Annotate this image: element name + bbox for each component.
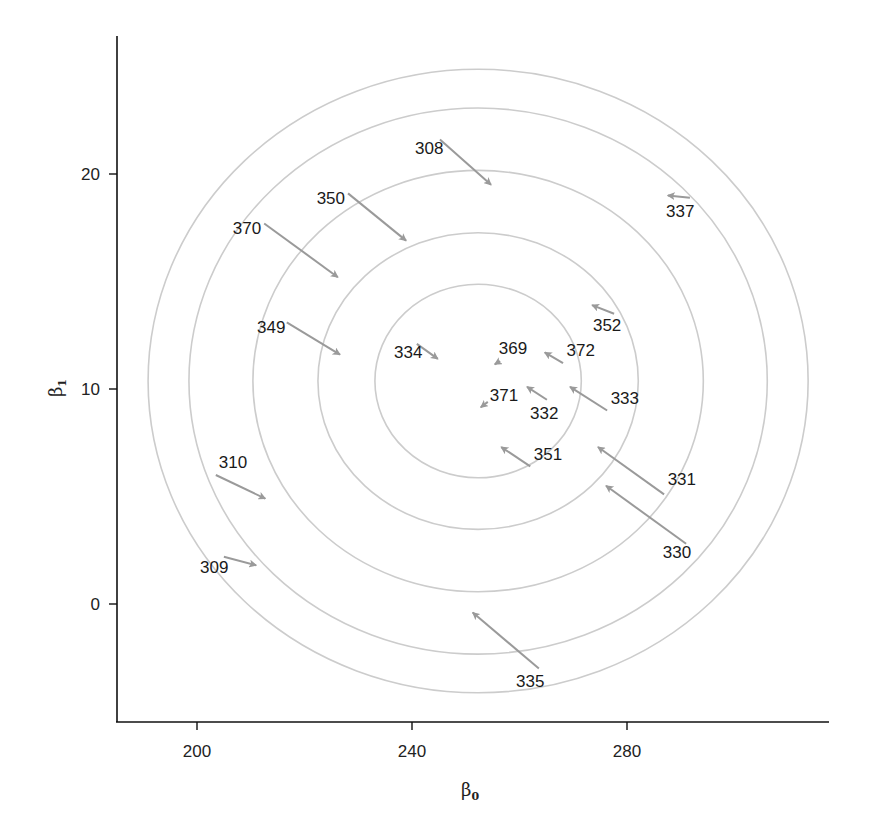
y-tick-label: 10 [81,380,100,399]
contour-ellipse-1 [189,108,767,654]
point-label-330: 330 [663,543,691,562]
y-tick-label: 0 [91,595,100,614]
arrow-352 [592,305,614,314]
point-label-350: 350 [317,189,345,208]
point-label-310: 310 [219,453,247,472]
contour-ellipse-3 [318,233,638,530]
point-label-332: 332 [530,404,558,423]
point-label-352: 352 [593,316,621,335]
point-label-308: 308 [415,139,443,158]
point-labels: 3083503703493343693723523373713323333513… [200,139,696,691]
arrow-309 [224,557,256,566]
y-axis-title: β1 [45,379,69,397]
x-ticks: 200240280 [183,722,641,761]
arrow-351 [501,447,530,466]
arrow-370 [264,223,338,277]
x-tick-label: 280 [613,742,641,761]
arrow-350 [348,193,406,240]
point-label-351: 351 [534,445,562,464]
arrow-310 [216,475,265,499]
x-tick-label: 200 [183,742,211,761]
point-label-371: 371 [490,386,518,405]
point-label-337: 337 [666,202,694,221]
arrow-349 [287,322,340,354]
arrow-333 [570,387,607,411]
point-label-369: 369 [499,339,527,358]
y-ticks: 01020 [81,165,117,614]
point-label-370: 370 [233,219,261,238]
point-label-335: 335 [516,672,544,691]
point-label-333: 333 [611,389,639,408]
chart-canvas: 3083503703493343693723523373713323333513… [0,0,884,839]
arrow-369 [495,361,500,364]
point-label-334: 334 [394,343,422,362]
arrow-330 [606,486,686,544]
arrow-337 [668,196,690,198]
point-label-372: 372 [567,341,595,360]
arrow-371 [481,402,488,407]
y-tick-label: 20 [81,165,100,184]
contour-ellipse-0 [148,69,808,693]
arrow-372 [545,352,563,363]
point-label-331: 331 [668,470,696,489]
x-axis-title: β0 [461,779,479,803]
point-label-309: 309 [200,558,228,577]
arrow-335 [473,613,539,669]
contour-ellipses [148,69,808,693]
arrow-332 [527,387,547,400]
arrow-308 [440,140,491,185]
point-label-349: 349 [257,318,285,337]
contour-ellipse-2 [253,170,703,591]
x-tick-label: 240 [398,742,426,761]
